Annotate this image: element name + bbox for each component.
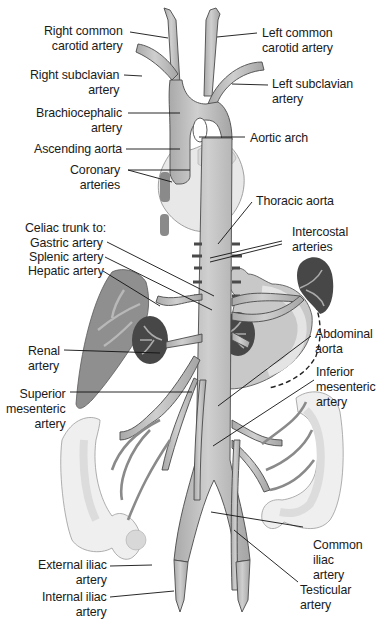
- label-common-iliac-artery: Common iliac artery: [313, 538, 363, 583]
- label-external-iliac-artery: External iliac artery: [38, 558, 107, 588]
- label-testicular-artery: Testicular artery: [300, 583, 351, 613]
- label-brachiocephalic-artery: Brachiocephalic artery: [36, 106, 122, 136]
- label-gastric-artery: Gastric artery: [30, 236, 103, 251]
- label-inferior-mesenteric-artery: Inferior mesenteric artery: [316, 365, 376, 410]
- label-superior-mesenteric-artery: Superior mesenteric artery: [6, 387, 66, 432]
- label-left-common-carotid-artery: Left common carotid artery: [262, 26, 333, 56]
- label-intercostal-arteries: Intercostal arteries: [292, 225, 348, 255]
- arterial-system-diagram: Right common carotid artery Left common …: [0, 0, 385, 623]
- label-coronary-arteries: Coronary arteries: [70, 163, 120, 193]
- label-renal-artery: Renal artery: [28, 344, 60, 374]
- label-aortic-arch: Aortic arch: [250, 131, 308, 146]
- label-hepatic-artery: Hepatic artery: [28, 264, 104, 279]
- label-thoracic-aorta: Thoracic aorta: [256, 194, 334, 209]
- label-left-subclavian-artery: Left subclavian artery: [272, 77, 353, 107]
- label-ascending-aorta: Ascending aorta: [34, 142, 122, 157]
- right-kidney: [132, 316, 168, 364]
- label-right-subclavian-artery: Right subclavian artery: [30, 68, 119, 98]
- label-internal-iliac-artery: Internal iliac artery: [42, 590, 107, 620]
- label-right-common-carotid-artery: Right common carotid artery: [44, 24, 123, 54]
- label-splenic-artery: Splenic artery: [29, 250, 103, 265]
- label-abdominal-aorta: Abdominal aorta: [315, 327, 373, 357]
- descending-colon-right: [262, 392, 343, 529]
- label-celiac-trunk: Celiac trunk to:: [25, 221, 106, 236]
